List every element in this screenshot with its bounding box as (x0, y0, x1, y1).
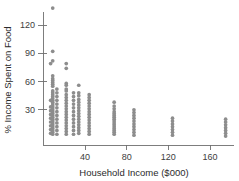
x-tick-label: 160 (202, 152, 217, 162)
data-points (49, 6, 228, 138)
data-point (72, 106, 76, 110)
y-tick-label: 60 (25, 77, 35, 87)
data-point (55, 125, 59, 129)
data-point (55, 95, 59, 99)
data-point (49, 131, 53, 135)
data-point (55, 132, 59, 136)
data-point (224, 134, 228, 138)
data-point (55, 106, 59, 110)
data-point (72, 117, 76, 121)
x-tick-label: 40 (80, 152, 90, 162)
data-point (72, 110, 76, 114)
data-point (55, 114, 59, 118)
data-point (49, 113, 53, 117)
data-point (112, 100, 116, 104)
data-point (72, 129, 76, 133)
x-tick-label: 80 (122, 152, 132, 162)
data-point (51, 6, 55, 10)
data-point (64, 66, 68, 70)
data-point (49, 120, 53, 124)
data-point (49, 109, 53, 113)
data-point (72, 125, 76, 129)
data-point (112, 132, 116, 136)
data-point (72, 91, 76, 95)
data-point (51, 59, 55, 63)
data-point (49, 105, 53, 109)
data-point (51, 84, 55, 88)
data-point (49, 124, 53, 128)
data-point (77, 131, 81, 135)
data-point (72, 95, 76, 99)
plot-area: 4080120160 306090120 Household Income ($… (0, 0, 239, 181)
data-point (77, 94, 81, 98)
data-point (64, 83, 68, 87)
data-point (49, 98, 53, 102)
data-point (55, 102, 59, 106)
data-point (51, 50, 55, 54)
x-axis: 4080120160 (43, 145, 234, 162)
y-axis-title: % Income Spent on Food (2, 26, 13, 133)
data-point (171, 133, 175, 137)
y-axis: 306090120 (20, 12, 47, 145)
scatter-chart: 4080120160 306090120 Household Income ($… (0, 0, 239, 181)
y-tick-label: 120 (20, 20, 35, 30)
data-point (55, 110, 59, 114)
data-point (72, 114, 76, 118)
data-point (77, 83, 81, 87)
data-point (64, 132, 68, 136)
data-point (72, 102, 76, 106)
data-point (87, 132, 91, 136)
data-point (55, 129, 59, 133)
data-point (55, 117, 59, 121)
data-point (55, 98, 59, 102)
x-axis-title: Household Income ($000) (79, 167, 188, 178)
data-point (55, 121, 59, 125)
data-point (55, 87, 59, 91)
data-point (72, 132, 76, 136)
data-point (49, 128, 53, 132)
data-point (72, 98, 76, 102)
data-point (64, 89, 68, 93)
x-tick-label: 120 (161, 152, 176, 162)
data-point (132, 133, 136, 137)
data-point (72, 121, 76, 125)
data-point (55, 91, 59, 95)
data-point (49, 116, 53, 120)
data-point (64, 62, 68, 66)
y-tick-label: 90 (25, 48, 35, 58)
y-tick-label: 30 (25, 105, 35, 115)
